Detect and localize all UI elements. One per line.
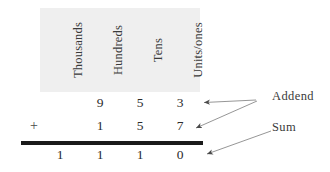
arrow-addend-row2 bbox=[196, 101, 257, 128]
annotation-label-addend: Addend bbox=[272, 89, 314, 104]
plus-operator: + bbox=[25, 118, 43, 134]
sum-digit-tens: 1 bbox=[129, 147, 151, 163]
sum-digit-units: 0 bbox=[169, 147, 191, 163]
addend2-digit-tens: 5 bbox=[129, 118, 151, 134]
addend2-digit-hundreds: 1 bbox=[89, 118, 111, 134]
column-header-thousands: Thousands bbox=[69, 8, 87, 92]
sum-rule-line bbox=[21, 141, 203, 145]
place-value-addition-figure: Thousands Hundreds Tens Units/ones 9 5 3… bbox=[0, 0, 330, 172]
addend1-digit-units: 3 bbox=[169, 95, 191, 111]
annotation-label-sum: Sum bbox=[272, 120, 296, 135]
column-header-hundreds: Hundreds bbox=[109, 8, 127, 92]
arrow-sum-row bbox=[207, 131, 271, 154]
column-header-units-ones: Units/ones bbox=[189, 8, 207, 92]
addend1-digit-tens: 5 bbox=[129, 95, 151, 111]
sum-digit-hundreds: 1 bbox=[89, 147, 111, 163]
addend2-digit-units: 7 bbox=[169, 118, 191, 134]
sum-digit-thousands: 1 bbox=[49, 147, 71, 163]
addend1-digit-hundreds: 9 bbox=[89, 95, 111, 111]
arrow-addend-row1 bbox=[204, 100, 256, 103]
column-header-tens: Tens bbox=[149, 8, 167, 92]
